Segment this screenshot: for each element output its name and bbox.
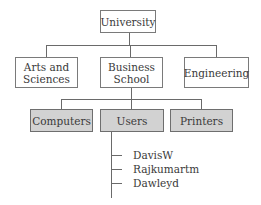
node-business-school[interactable]: Business School <box>100 57 163 88</box>
connector-users-list-vertical <box>111 132 112 198</box>
node-label: Business School <box>108 61 155 85</box>
node-label: Engineering <box>184 67 250 79</box>
user-leaf-davisw[interactable]: DavisW <box>133 149 173 161</box>
node-users[interactable]: Users <box>100 109 164 132</box>
node-printers[interactable]: Printers <box>170 109 233 132</box>
node-label: Printers <box>180 115 223 127</box>
connector-arts-drop <box>46 45 47 57</box>
tick-user-2 <box>111 169 122 170</box>
user-leaf-rajkumartm[interactable]: Rajkumartm <box>133 163 199 175</box>
tick-user-3 <box>111 183 122 184</box>
connector-business-drop <box>130 45 131 57</box>
node-university[interactable]: University <box>100 10 156 33</box>
user-leaf-dawleyd[interactable]: Dawleyd <box>133 177 179 189</box>
node-engineering[interactable]: Engineering <box>184 57 249 88</box>
connector-root-down <box>129 33 130 45</box>
node-computers[interactable]: Computers <box>30 109 93 132</box>
node-label: Users <box>117 115 148 127</box>
node-arts-and-sciences[interactable]: Arts and Sciences <box>15 57 78 88</box>
connector-printers-drop <box>201 99 202 109</box>
node-label: Computers <box>32 115 91 127</box>
connector-engineering-drop <box>216 45 217 57</box>
tick-user-1 <box>111 155 122 156</box>
connector-business-down <box>131 88 132 99</box>
node-label: Arts and Sciences <box>23 61 70 85</box>
connector-users-drop <box>131 99 132 109</box>
connector-level1-horizontal <box>46 45 217 46</box>
connector-computers-drop <box>61 99 62 109</box>
node-label: University <box>100 16 155 28</box>
